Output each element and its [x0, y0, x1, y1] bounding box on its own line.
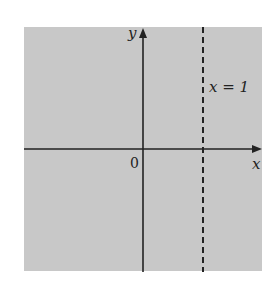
- origin-label: 0: [130, 155, 139, 171]
- line-equation-label: x = 1: [209, 78, 249, 96]
- y-axis-label: y: [127, 24, 137, 42]
- coordinate-plane-diagram: y x 0 x = 1: [0, 0, 274, 286]
- x-axis-label: x: [252, 155, 261, 173]
